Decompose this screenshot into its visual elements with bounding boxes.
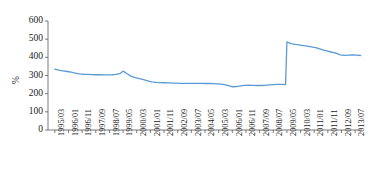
x-tick-label: 2004/05: [208, 109, 216, 136]
x-tick-label: 2012/09: [345, 109, 353, 136]
x-tick-label: 1995/03: [58, 109, 66, 136]
x-tick-label: 2011/01: [317, 109, 325, 136]
x-tick-label: 2003/07: [195, 109, 203, 136]
x-tick-label: 2011/11: [331, 109, 339, 136]
x-tick-label: 1997/09: [99, 109, 107, 136]
x-tick-label: 2005/03: [222, 109, 230, 136]
x-tick-label: 2009/05: [290, 109, 298, 136]
x-tick-label: 1996/11: [85, 109, 93, 136]
x-tick-label: 1998/07: [113, 109, 121, 136]
y-tick-label: 600: [10, 16, 43, 26]
y-tick-label: 200: [10, 89, 43, 99]
x-tick-label: 1996/01: [72, 109, 80, 136]
x-tick-label: 2010/03: [304, 109, 312, 136]
x-tick-label: 2001/11: [167, 109, 175, 136]
y-tick-label: 500: [10, 34, 43, 44]
line-chart: % 0100200300400500600 1995/031996/011996…: [0, 0, 370, 190]
y-axis-ticks: [45, 21, 48, 130]
x-tick-label: 2007/09: [263, 109, 271, 136]
x-tick-label: 1999/05: [126, 109, 134, 136]
x-tick-label: 2013/07: [358, 109, 366, 136]
x-tick-label: 2000/03: [140, 109, 148, 136]
x-tick-label: 2001/01: [154, 109, 162, 136]
chart-canvas: [0, 0, 370, 190]
y-tick-label: 100: [10, 107, 43, 117]
y-tick-label: 400: [10, 52, 43, 62]
x-tick-label: 2008/07: [276, 109, 284, 136]
x-tick-label: 2006/01: [236, 109, 244, 136]
data-series-line: [55, 42, 361, 87]
y-tick-label: 0: [10, 125, 43, 135]
y-tick-label: 300: [10, 71, 43, 81]
x-tick-label: 2006/11: [249, 109, 257, 136]
x-tick-label: 2002/09: [181, 109, 189, 136]
